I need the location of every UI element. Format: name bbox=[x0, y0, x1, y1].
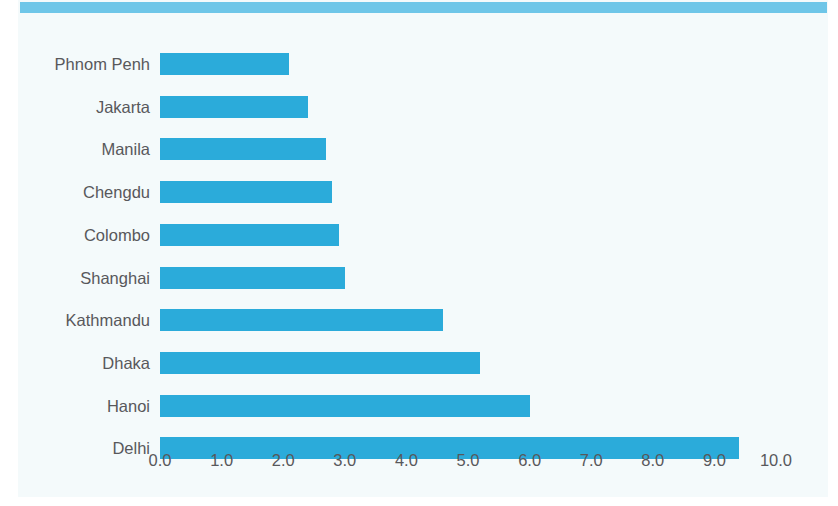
bar-row: Manila bbox=[0, 138, 838, 160]
bar-row: Jakarta bbox=[0, 96, 838, 118]
x-tick-label: 10.0 bbox=[746, 447, 806, 473]
bar-row: Dhaka bbox=[0, 352, 838, 374]
x-tick-label: 3.0 bbox=[315, 447, 375, 473]
bar-row: Chengdu bbox=[0, 181, 838, 203]
category-label: Manila bbox=[10, 138, 150, 160]
bar-row: Shanghai bbox=[0, 267, 838, 289]
x-tick-label: 6.0 bbox=[500, 447, 560, 473]
plot-area: Phnom PenhJakartaManilaChengduColomboSha… bbox=[0, 0, 838, 506]
bar bbox=[160, 181, 332, 203]
bar-row: Kathmandu bbox=[0, 309, 838, 331]
bar bbox=[160, 395, 530, 417]
x-tick-label: 8.0 bbox=[623, 447, 683, 473]
bar bbox=[160, 53, 289, 75]
category-label: Dhaka bbox=[10, 352, 150, 374]
x-tick-label: 9.0 bbox=[684, 447, 744, 473]
bar bbox=[160, 138, 326, 160]
bar bbox=[160, 267, 345, 289]
x-axis: 0.01.02.03.04.05.06.07.08.09.010.0 bbox=[0, 447, 838, 473]
category-label: Jakarta bbox=[10, 96, 150, 118]
x-tick-label: 1.0 bbox=[192, 447, 252, 473]
x-tick-label: 0.0 bbox=[130, 447, 190, 473]
category-label: Phnom Penh bbox=[10, 53, 150, 75]
category-label: Hanoi bbox=[10, 395, 150, 417]
x-tick-label: 7.0 bbox=[561, 447, 621, 473]
bar bbox=[160, 96, 308, 118]
category-label: Shanghai bbox=[10, 267, 150, 289]
category-label: Chengdu bbox=[10, 181, 150, 203]
category-label: Colombo bbox=[10, 224, 150, 246]
category-label: Kathmandu bbox=[10, 309, 150, 331]
bar-row: Phnom Penh bbox=[0, 53, 838, 75]
bar bbox=[160, 224, 339, 246]
bar bbox=[160, 352, 480, 374]
x-tick-label: 5.0 bbox=[438, 447, 498, 473]
chart-figure: Phnom PenhJakartaManilaChengduColomboSha… bbox=[0, 0, 838, 506]
bar-row: Hanoi bbox=[0, 395, 838, 417]
bar bbox=[160, 309, 443, 331]
bar-row: Colombo bbox=[0, 224, 838, 246]
x-tick-label: 4.0 bbox=[376, 447, 436, 473]
x-tick-label: 2.0 bbox=[253, 447, 313, 473]
